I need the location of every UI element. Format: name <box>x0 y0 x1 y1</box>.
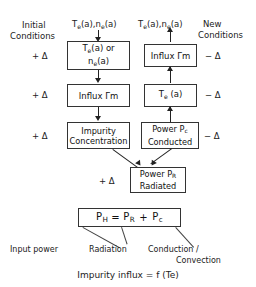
box-te-or-ne: Te(a) or ne(a) <box>67 41 130 70</box>
equation-term-ph: PH <box>96 211 108 224</box>
box-power-pc-conducted-line2: Conducted <box>148 137 192 147</box>
equation-term-pr: PR <box>123 211 135 224</box>
right-delta-1: − Δ <box>205 51 221 61</box>
box-te-a-line1: Te (a) <box>159 89 183 102</box>
figure-canvas: Initial Conditions Te(a),ne(a) Te(a),ne(… <box>0 0 256 287</box>
new-conditions-label-line2: Conditions <box>198 30 243 40</box>
left-input-variables-label: Te(a),ne(a) <box>72 19 117 32</box>
box-impurity-concentration-line2: Concentration <box>70 136 128 146</box>
equation-term-pc: Pc <box>152 211 163 224</box>
box-impurity-concentration: Impurity Concentration <box>67 122 130 149</box>
radiated-delta: + Δ <box>99 176 115 186</box>
footer-note: Impurity influx = f (Te) <box>0 270 256 280</box>
right-delta-2: − Δ <box>205 90 221 100</box>
box-power-pc-conducted: Power Pc Conducted <box>141 122 199 149</box>
left-delta-3: + Δ <box>32 131 48 141</box>
box-power-pr-radiated: Power PR Radiated <box>130 167 186 193</box>
box-power-pr-radiated-line1: Power PR <box>140 169 176 179</box>
right-delta-3: − Δ <box>204 131 220 141</box>
power-balance-equation-box: PH = PR + Pc <box>78 208 181 227</box>
right-output-variables-label: Te(a),ne(a) <box>138 19 183 32</box>
box-influx-left: Influx Γm <box>67 84 130 107</box>
right-connector-1-arrowhead <box>167 66 173 71</box>
callout-label-radiation: Radiation <box>89 245 127 255</box>
box-power-pr-radiated-line2: Radiated <box>140 181 176 191</box>
diagonal-arrow-left-line <box>112 149 138 168</box>
equation-equals: = <box>108 212 123 223</box>
box-te-a: Te (a) <box>144 84 197 107</box>
left-delta-2: + Δ <box>32 90 48 100</box>
box-influx-right: Influx Γm <box>144 44 197 67</box>
new-conditions-label-line1: New <box>203 19 222 29</box>
box-influx-left-line1: Influx Γm <box>79 91 118 101</box>
callout-label-conduction: Conduction / <box>148 245 199 255</box>
initial-conditions-label-line2: Conditions <box>10 31 55 41</box>
callout-label-convection: Convection <box>176 256 221 266</box>
right-exit-arrowhead <box>167 27 173 32</box>
box-te-or-ne-line1: Te(a) or <box>82 43 114 53</box>
box-te-or-ne-line2: ne(a) <box>88 56 109 66</box>
left-delta-1: + Δ <box>32 51 48 61</box>
right-connector-2-arrowhead <box>167 106 173 111</box>
box-power-pc-conducted-line1: Power Pc <box>152 124 188 134</box>
callout-line-radiation <box>121 227 128 244</box>
initial-conditions-label-line1: Initial <box>22 20 46 30</box>
left-connector-1-arrowhead <box>95 78 101 83</box>
left-connector-2-arrowhead <box>95 116 101 121</box>
equation-plus: + <box>135 212 152 223</box>
box-impurity-concentration-line1: Impurity <box>81 126 115 136</box>
box-influx-right-line1: Influx Γm <box>151 51 190 61</box>
callout-label-input-power: Input power <box>10 245 58 255</box>
